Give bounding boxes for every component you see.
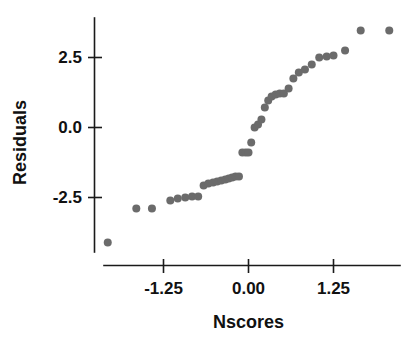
x-tick-label-0.00: 0.00 bbox=[232, 279, 265, 298]
data-point bbox=[341, 47, 349, 55]
data-point bbox=[301, 66, 309, 74]
x-axis-title: Nscores bbox=[213, 312, 284, 332]
data-point bbox=[323, 52, 331, 60]
y-tick-label-2.5: 2.5 bbox=[58, 48, 82, 67]
data-point bbox=[245, 148, 253, 156]
data-point bbox=[247, 139, 255, 147]
data-point bbox=[289, 75, 297, 83]
data-point bbox=[194, 192, 202, 200]
data-point bbox=[261, 104, 269, 112]
data-point bbox=[385, 27, 393, 35]
data-point bbox=[357, 27, 365, 35]
y-tick-label--2.5: -2.5 bbox=[53, 188, 82, 207]
data-point bbox=[315, 54, 323, 62]
data-point bbox=[285, 85, 293, 93]
x-tick-label-1.25: 1.25 bbox=[317, 279, 350, 298]
data-point bbox=[104, 239, 112, 247]
data-point bbox=[235, 173, 243, 181]
data-point bbox=[132, 204, 140, 212]
y-tick-label-0.0: 0.0 bbox=[58, 118, 82, 137]
data-point bbox=[308, 61, 316, 69]
data-point bbox=[181, 194, 189, 202]
data-point bbox=[166, 197, 174, 205]
data-point bbox=[148, 204, 156, 212]
scatter-plot-canvas: 2.5 0.0 -2.5 Residuals -1.25 0.00 1.25 N… bbox=[0, 0, 412, 348]
x-tick-label--1.25: -1.25 bbox=[144, 279, 183, 298]
y-axis-title: Residuals bbox=[10, 100, 30, 185]
data-point bbox=[330, 52, 338, 60]
data-point bbox=[257, 115, 265, 123]
data-point bbox=[174, 195, 182, 203]
data-points-group bbox=[104, 27, 394, 247]
